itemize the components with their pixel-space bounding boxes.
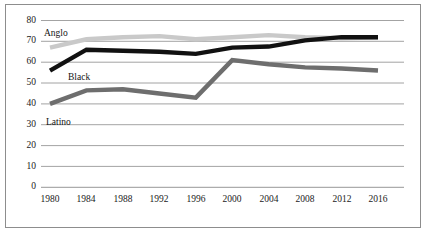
gridlines — [41, 21, 404, 188]
xtick-label-1984: 1984 — [77, 194, 96, 204]
xtick-label-2008: 2008 — [296, 194, 315, 204]
series-label-black: Black — [68, 72, 90, 82]
xtick-label-2000: 2000 — [223, 194, 242, 204]
xtick-label-1988: 1988 — [114, 194, 133, 204]
ytick-label-20: 20 — [27, 140, 37, 150]
ytick-label-40: 40 — [27, 98, 37, 108]
ytick-label-0: 0 — [31, 181, 36, 191]
ytick-label-70: 70 — [27, 35, 37, 45]
series-line-latino — [50, 60, 378, 104]
line-chart-plot: 80 70 60 50 40 30 20 10 0 1980 1984 1988… — [0, 0, 426, 233]
data-series-group — [50, 35, 378, 104]
ytick-label-10: 10 — [27, 161, 37, 171]
xtick-label-2012: 2012 — [333, 194, 352, 204]
series-line-black — [50, 37, 378, 70]
ytick-label-30: 30 — [27, 119, 37, 129]
chart-figure: 80 70 60 50 40 30 20 10 0 1980 1984 1988… — [0, 0, 426, 233]
series-label-anglo: Anglo — [44, 28, 68, 38]
xtick-label-2004: 2004 — [260, 194, 279, 204]
series-label-latino: Latino — [46, 117, 71, 127]
y-axis-tick-labels: 80 70 60 50 40 30 20 10 0 — [27, 15, 37, 192]
xtick-label-1992: 1992 — [150, 194, 169, 204]
xtick-label-1980: 1980 — [41, 194, 60, 204]
xtick-label-2016: 2016 — [369, 194, 388, 204]
xtick-label-1996: 1996 — [187, 194, 206, 204]
ytick-label-50: 50 — [27, 77, 37, 87]
x-axis-tick-labels: 1980 1984 1988 1992 1996 2000 2004 2008 … — [41, 194, 388, 204]
ytick-label-80: 80 — [27, 15, 37, 25]
ytick-label-60: 60 — [27, 56, 37, 66]
